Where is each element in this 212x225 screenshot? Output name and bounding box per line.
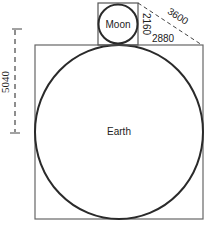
earth-moon-diagram: Earth Moon 5040 2160 2880 3600 bbox=[0, 0, 212, 225]
moon-side-value: 2160 bbox=[141, 13, 152, 36]
horizontal-leg-value: 2880 bbox=[152, 33, 175, 44]
moon-label: Moon bbox=[105, 19, 130, 30]
earth-label: Earth bbox=[107, 126, 131, 137]
earth-side-value: 5040 bbox=[0, 71, 11, 94]
